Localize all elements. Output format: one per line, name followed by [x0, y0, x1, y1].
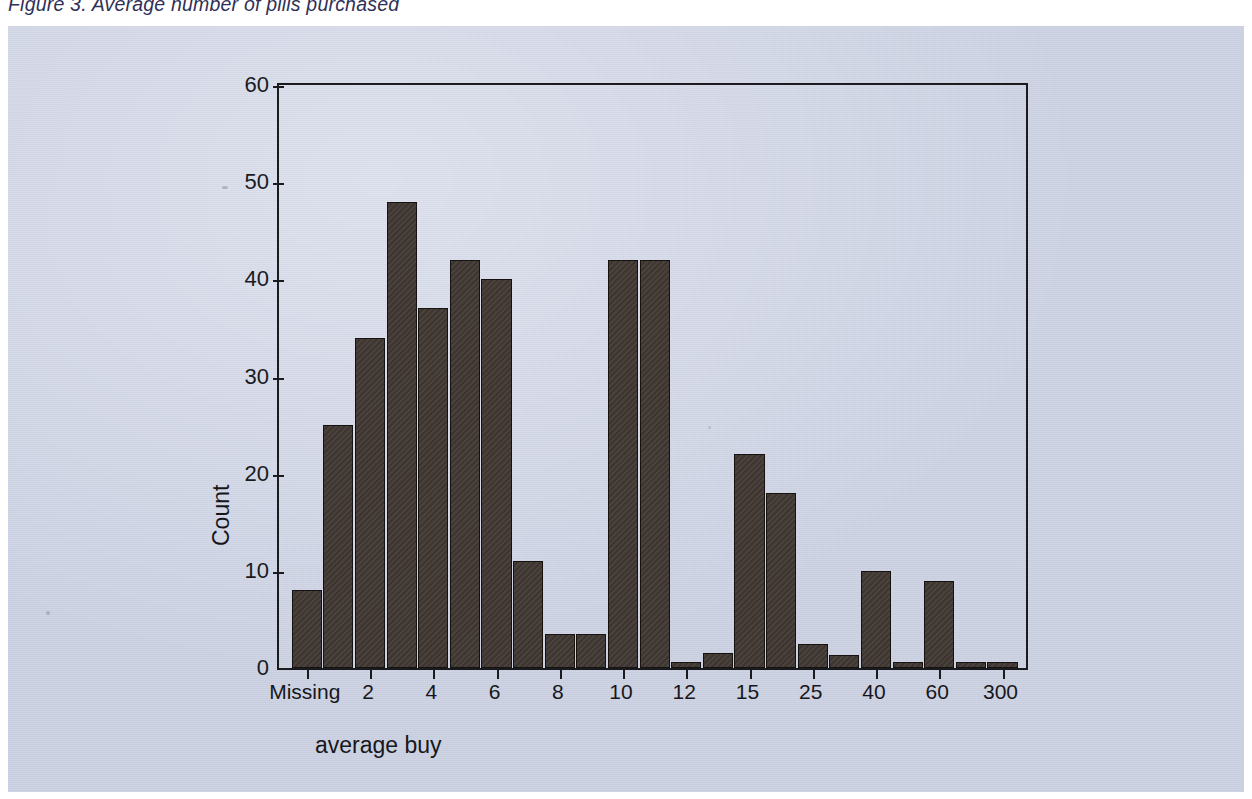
- x-axis-tick-label: 4: [425, 680, 437, 704]
- x-axis-tick-label: 10: [609, 680, 632, 704]
- chart-plate: 0102030405060 Count Missing2468101215254…: [8, 26, 1244, 792]
- x-axis-tick-label: 40: [862, 680, 885, 704]
- x-axis-tick-label: 2: [362, 680, 374, 704]
- x-axis-tick-label: 300: [983, 680, 1018, 704]
- x-axis-tick-label: Missing: [269, 680, 340, 704]
- x-axis-tick-label: 6: [489, 680, 501, 704]
- x-axis-tick-label: 60: [926, 680, 949, 704]
- x-axis-tick-label: 8: [552, 680, 564, 704]
- x-axis-tick-label: 15: [736, 680, 759, 704]
- x-axis-tick-label: 25: [799, 680, 822, 704]
- x-axis-title: average buy: [315, 732, 442, 759]
- x-axis-tick-labels: Missing2468101215254060300: [8, 26, 1244, 792]
- x-axis-tick-label: 12: [673, 680, 696, 704]
- figure-caption: Figure 3. Average number of pills purcha…: [8, 0, 399, 16]
